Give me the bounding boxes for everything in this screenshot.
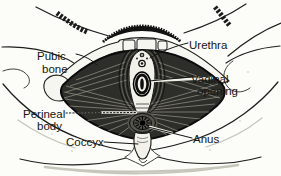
symphysis-segment-right [158,41,167,50]
label-perineal-body-line2: body [37,120,62,132]
label-coccyx: Coccyx [66,136,104,148]
label-urethra: Urethra [189,39,228,51]
label-vaginal-opening-line1: Vaginal [191,73,229,85]
symphysis-segment-left [123,40,135,51]
anus-graphic [128,112,158,134]
label-vaginal-opening-line2: opening [197,85,238,97]
label-pubic-bone-line2: bone [42,63,68,75]
perineal-body-leader [66,113,136,114]
label-pubic-bone-line1: Pubic [37,50,66,62]
pelvic-floor-figure: Pubic bone Urethra Vaginal opening Perin… [0,0,281,176]
anatomy-illustration: Pubic bone Urethra Vaginal opening Perin… [0,0,281,176]
vaginal-opening-graphic [134,72,151,96]
label-anus: Anus [193,133,219,145]
label-perineal-body-line1: Perineal [23,108,65,120]
